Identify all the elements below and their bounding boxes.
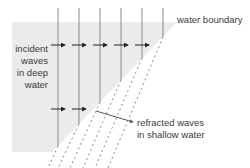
incident-label-line: incident	[4, 43, 48, 55]
incident-waves-label: incident waves in deep water	[4, 43, 48, 91]
refracted-direction-arrow	[96, 111, 133, 122]
incident-label-line: waves	[4, 55, 48, 67]
refracted-label-line: refracted waves	[137, 117, 205, 129]
water-boundary-label: water boundary	[177, 14, 242, 26]
refracted-waves-label: refracted waves in shallow water	[137, 117, 205, 141]
incident-label-line: water	[4, 79, 48, 91]
incident-label-line: in deep	[4, 67, 48, 79]
refracted-label-line: in shallow water	[137, 129, 205, 141]
